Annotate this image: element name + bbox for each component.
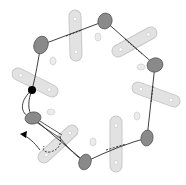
node-ellipse <box>77 152 94 171</box>
bar-shape <box>44 131 72 157</box>
bar-hole <box>114 124 118 128</box>
bar-hole <box>169 98 173 102</box>
bar-hole <box>73 17 77 21</box>
bar-hole <box>47 88 51 92</box>
node-ellipse <box>96 11 115 31</box>
bar-hole <box>68 131 72 135</box>
bar-hole <box>147 33 151 37</box>
arrow-head-icon <box>20 131 27 138</box>
bar-shape <box>118 33 151 52</box>
ring-diagram <box>0 0 186 185</box>
small-ellipse <box>95 33 101 41</box>
double-strand-b <box>36 122 60 138</box>
bar-hole <box>74 50 78 54</box>
bar-shape <box>138 87 174 102</box>
bar-shape <box>73 16 77 55</box>
bar-hole <box>114 161 118 165</box>
node-ellipse <box>31 34 50 56</box>
marker-dot <box>28 86 36 94</box>
bar-shape <box>114 122 118 166</box>
bar-hole <box>139 87 143 91</box>
node-ellipse <box>140 129 155 147</box>
small-ellipse <box>90 138 96 146</box>
bar-hole <box>19 74 23 78</box>
small-ellipse <box>134 112 140 120</box>
bar-hole <box>44 153 48 157</box>
small-ellipse <box>50 57 56 65</box>
bar-hole <box>119 48 123 52</box>
small-ellipse <box>47 109 55 115</box>
small-ellipse <box>137 64 145 70</box>
